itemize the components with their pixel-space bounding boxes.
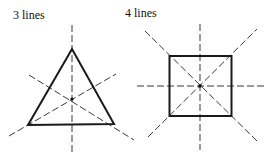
triangle-center-point [70, 97, 73, 100]
square-panel [137, 24, 265, 150]
equilateral-triangle [28, 49, 114, 125]
triangle-panel [9, 25, 134, 152]
symmetry-diagram [0, 0, 274, 156]
square-center-point [198, 84, 202, 88]
triangle-symmetry-line-right [9, 74, 116, 136]
triangle-symmetry-line-left [29, 75, 134, 140]
square-symmetry-line-diagonal-up [148, 29, 257, 137]
